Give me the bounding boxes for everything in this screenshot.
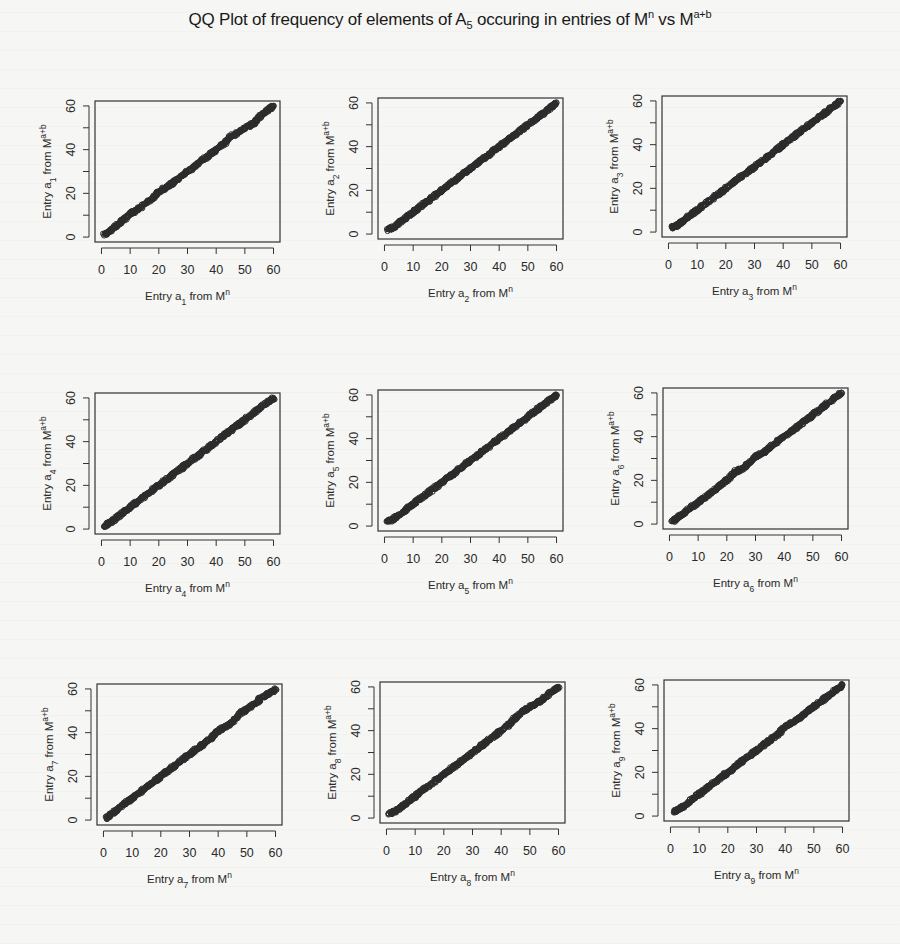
x-tick-label: 30 <box>464 260 478 274</box>
data-points <box>669 98 843 231</box>
x-tick-label: 20 <box>435 260 449 274</box>
y-axis: 0204060 <box>66 682 91 824</box>
data-points <box>103 686 279 822</box>
x-axis: 0102030405060 <box>98 540 281 569</box>
x-tick-label: 60 <box>550 552 564 566</box>
y-tick-label: 40 <box>633 722 647 736</box>
y-tick-label: 20 <box>64 186 78 200</box>
y-axis-label: Entry a4 from Ma+b <box>38 416 58 511</box>
x-tick-label: 40 <box>494 844 508 858</box>
x-tick-label: 60 <box>267 263 281 277</box>
qq-panel-2: 01020304050600204060Entry a2 from MnEntr… <box>303 78 583 318</box>
x-tick-label: 10 <box>123 263 137 277</box>
data-points <box>671 681 845 815</box>
x-tick-label: 20 <box>719 258 733 272</box>
x-axis: 0102030405060 <box>383 829 566 858</box>
x-tick-label: 50 <box>521 552 535 566</box>
y-tick-label: 40 <box>66 726 80 740</box>
x-tick-label: 0 <box>381 260 388 274</box>
y-tick-label: 0 <box>632 521 646 528</box>
x-tick-label: 40 <box>492 260 506 274</box>
y-tick-label: 0 <box>347 523 361 530</box>
y-tick-label: 60 <box>64 99 78 113</box>
y-tick-label: 60 <box>632 386 646 400</box>
y-axis-label: Entry a9 from Ma+b <box>607 703 627 798</box>
x-axis: 0102030405060 <box>381 537 564 566</box>
x-tick-label: 60 <box>269 846 283 860</box>
x-axis-label: Entry a6 from Mn <box>713 574 798 594</box>
y-tick-label: 60 <box>633 678 647 692</box>
y-tick-label: 20 <box>349 767 363 781</box>
y-tick-label: 20 <box>633 765 647 779</box>
qq-panel-1: 01020304050600204060Entry a1 from MnEntr… <box>20 81 300 321</box>
y-axis: 0204060 <box>631 94 656 236</box>
qq-panel-8: 01020304050600204060Entry a8 from MnEntr… <box>305 662 585 902</box>
x-tick-label: 20 <box>435 552 449 566</box>
x-axis-label: Entry a1 from Mn <box>145 287 230 307</box>
x-tick-label: 10 <box>406 552 420 566</box>
y-axis: 0204060 <box>347 96 372 238</box>
x-tick-label: 0 <box>665 258 672 272</box>
x-axis: 0102030405060 <box>667 827 850 856</box>
x-tick-label: 10 <box>125 846 139 860</box>
y-tick-label: 40 <box>349 724 363 738</box>
x-tick-label: 50 <box>805 258 819 272</box>
y-tick-label: 20 <box>347 183 361 197</box>
x-tick-label: 30 <box>466 844 480 858</box>
y-axis: 0204060 <box>347 388 372 530</box>
x-tick-label: 0 <box>383 844 390 858</box>
y-tick-label: 20 <box>631 181 645 195</box>
y-axis: 0204060 <box>349 680 374 822</box>
y-tick-label: 40 <box>64 143 78 157</box>
x-axis: 0102030405060 <box>100 831 283 860</box>
x-tick-label: 30 <box>181 555 195 569</box>
x-axis: 0102030405060 <box>381 245 564 274</box>
qq-panel-6: 01020304050600204060Entry a6 from MnEntr… <box>588 368 868 608</box>
qq-panel-3: 01020304050600204060Entry a3 from MnEntr… <box>587 76 867 316</box>
x-tick-label: 0 <box>98 555 105 569</box>
y-tick-label: 0 <box>64 234 78 241</box>
x-tick-label: 0 <box>381 552 388 566</box>
y-tick-label: 20 <box>64 478 78 492</box>
x-tick-label: 0 <box>666 550 673 564</box>
x-tick-label: 50 <box>238 555 252 569</box>
x-tick-label: 30 <box>748 258 762 272</box>
y-tick-label: 60 <box>347 96 361 110</box>
y-axis-label: Entry a7 from Ma+b <box>40 707 60 802</box>
y-tick-label: 40 <box>64 435 78 449</box>
x-tick-label: 60 <box>552 844 566 858</box>
x-tick-label: 60 <box>834 258 848 272</box>
x-tick-label: 50 <box>807 842 821 856</box>
figure-title: QQ Plot of frequency of elements of A5 o… <box>0 8 900 31</box>
x-tick-label: 20 <box>720 550 734 564</box>
y-tick-label: 60 <box>64 391 78 405</box>
x-tick-label: 10 <box>692 842 706 856</box>
data-points <box>669 390 845 524</box>
qq-panel-7: 01020304050600204060Entry a7 from MnEntr… <box>22 664 302 904</box>
x-tick-label: 10 <box>691 550 705 564</box>
y-tick-label: 40 <box>347 432 361 446</box>
y-axis-label: Entry a1 from Ma+b <box>38 124 58 219</box>
y-axis: 0204060 <box>64 391 89 533</box>
qq-panel-5: 01020304050600204060Entry a5 from MnEntr… <box>303 370 583 610</box>
y-tick-label: 40 <box>631 138 645 152</box>
x-axis-label: Entry a3 from Mn <box>712 282 797 302</box>
y-tick-label: 60 <box>66 682 80 696</box>
x-axis-label: Entry a8 from Mn <box>430 868 515 888</box>
qq-panel-9: 01020304050600204060Entry a9 from MnEntr… <box>589 660 869 900</box>
x-tick-label: 10 <box>123 555 137 569</box>
x-tick-label: 40 <box>209 263 223 277</box>
y-tick-label: 60 <box>631 94 645 108</box>
x-tick-label: 10 <box>406 260 420 274</box>
title-text-b: occuring in entries of M <box>472 10 647 29</box>
y-tick-label: 0 <box>66 817 80 824</box>
x-tick-label: 60 <box>550 260 564 274</box>
x-tick-label: 20 <box>152 263 166 277</box>
x-tick-label: 50 <box>238 263 252 277</box>
y-tick-label: 20 <box>347 475 361 489</box>
title-sup-ab: a+b <box>693 8 711 20</box>
y-axis: 0204060 <box>632 386 657 528</box>
title-text-a: QQ Plot of frequency of elements of A <box>189 10 467 29</box>
y-tick-label: 0 <box>631 229 645 236</box>
x-tick-label: 30 <box>181 263 195 277</box>
